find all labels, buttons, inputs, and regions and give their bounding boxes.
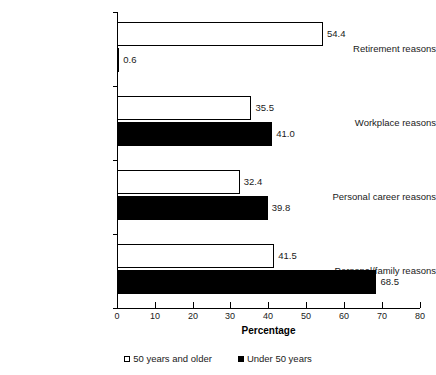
x-axis-tick-label: 30 xyxy=(218,311,242,322)
x-axis-line xyxy=(117,308,420,309)
x-axis-tick xyxy=(344,302,345,308)
bar-value-label: 41.5 xyxy=(278,250,297,261)
x-axis-tick xyxy=(155,302,156,308)
open-square-icon xyxy=(124,356,130,362)
x-axis-tick-label: 70 xyxy=(370,311,394,322)
x-axis-tick xyxy=(117,302,118,308)
bar-older-retirement xyxy=(117,22,323,46)
legend-label: Under 50 years xyxy=(247,353,312,364)
bar-under-retirement xyxy=(117,48,119,72)
x-axis-tick-label: 10 xyxy=(143,311,167,322)
y-axis-tick xyxy=(113,308,117,309)
bar-under-workplace xyxy=(117,122,272,146)
x-axis-tick xyxy=(193,302,194,308)
x-axis-tick-label: 80 xyxy=(408,311,432,322)
x-axis-tick-label: 50 xyxy=(294,311,318,322)
x-axis-tick-label: 0 xyxy=(105,311,129,322)
category-label-2: Personal career reasons xyxy=(324,191,436,202)
bar-older-workplace xyxy=(117,96,251,120)
bar-value-label: 35.5 xyxy=(255,102,274,113)
bar-under-family xyxy=(117,270,376,294)
x-axis-tick xyxy=(306,302,307,308)
bar-value-label: 39.8 xyxy=(272,202,291,213)
x-axis-tick xyxy=(420,302,421,308)
bar-older-family xyxy=(117,244,274,268)
legend-item-older: 50 years and older xyxy=(124,353,212,364)
bar-value-label: 0.6 xyxy=(123,54,136,65)
bar-value-label: 68.5 xyxy=(380,276,399,287)
category-label-0: Retirement reasons xyxy=(324,43,436,54)
filled-square-icon xyxy=(238,356,244,362)
legend-item-under: Under 50 years xyxy=(238,353,312,364)
y-axis-tick xyxy=(113,160,117,161)
y-axis-tick xyxy=(113,86,117,87)
category-label-1: Workplace reasons xyxy=(324,117,436,128)
x-axis-tick-label: 20 xyxy=(181,311,205,322)
bar-older-career xyxy=(117,170,240,194)
chart-legend: 50 years and older Under 50 years xyxy=(0,353,436,364)
x-axis-tick xyxy=(230,302,231,308)
y-axis-tick xyxy=(113,12,117,13)
x-axis-tick xyxy=(268,302,269,308)
bar-chart: Retirement reasons Workplace reasons Per… xyxy=(0,0,436,375)
legend-label: 50 years and older xyxy=(133,353,212,364)
bar-value-label: 54.4 xyxy=(327,28,346,39)
x-axis-tick xyxy=(382,302,383,308)
x-axis-tick-label: 60 xyxy=(332,311,356,322)
bar-value-label: 41.0 xyxy=(276,128,295,139)
bar-under-career xyxy=(117,196,268,220)
y-axis-tick xyxy=(113,234,117,235)
x-axis-tick-label: 40 xyxy=(256,311,280,322)
x-axis-title: Percentage xyxy=(117,325,420,337)
bar-value-label: 32.4 xyxy=(244,176,263,187)
